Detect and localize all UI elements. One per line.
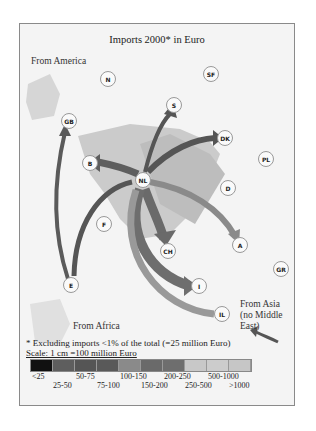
legend-tick-label: 250-500	[185, 381, 212, 390]
legend-swatch	[97, 360, 119, 371]
node-e: E	[63, 277, 79, 293]
legend-tick-label: 100-150	[120, 372, 147, 381]
label-from-america: From America	[31, 56, 86, 67]
legend-swatch	[207, 360, 229, 371]
label-from-africa: From Africa	[73, 321, 120, 332]
node-ch: CH	[160, 243, 176, 259]
legend-swatch	[163, 360, 185, 371]
node-dk: DK	[217, 130, 233, 146]
legend-swatch	[185, 360, 207, 371]
node-il: IL	[214, 306, 230, 322]
legend-swatch	[141, 360, 163, 371]
node-pl: PL	[258, 151, 274, 167]
america-shape	[26, 74, 60, 120]
node-d: D	[220, 180, 236, 196]
scale-text: Scale: 1 cm =100 million Euro	[26, 348, 137, 358]
node-b: B	[82, 155, 98, 171]
legend-swatch	[53, 360, 75, 371]
node-gr: GR	[273, 261, 289, 277]
node-gb: GB	[61, 113, 77, 129]
legend-swatch	[229, 360, 251, 371]
node-a: A	[232, 237, 248, 253]
legend-tick-label: 500-1000	[208, 372, 239, 381]
node-i: I	[191, 278, 207, 294]
node-nl: NL	[135, 172, 151, 188]
legend-tick-label: 150-200	[141, 381, 168, 390]
legend-swatch	[31, 360, 53, 371]
legend-tick-label: >1000	[229, 381, 250, 390]
label-from-asia: From Asia (no Middle East)	[240, 299, 282, 332]
diagram-frame: Imports 2000* in Euro From America From …	[19, 23, 295, 406]
legend-tick-label: 200-250	[164, 372, 191, 381]
legend-swatch	[119, 360, 141, 371]
node-f: F	[96, 216, 112, 232]
legend-tick-label: 75-100	[97, 381, 120, 390]
node-n: N	[100, 71, 116, 87]
color-legend	[30, 359, 252, 372]
legend-tick-label: 50-75	[76, 372, 95, 381]
legend-tick-label: <25	[32, 372, 45, 381]
legend-tick-label: 25-50	[53, 381, 72, 390]
legend-swatch	[75, 360, 97, 371]
footnote: * Excluding imports <1% of the total (=2…	[26, 338, 230, 348]
node-sf: SF	[203, 66, 219, 82]
node-s: S	[166, 97, 182, 113]
